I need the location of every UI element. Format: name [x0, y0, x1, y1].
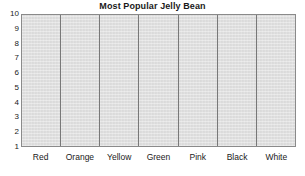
x-axis: RedOrangeYellowGreenPinkBlackWhite — [21, 152, 296, 163]
x-tick-label: White — [257, 152, 296, 163]
jelly-bean-bar-chart: Most Popular Jelly Bean 10987654321 RedO… — [0, 0, 305, 176]
category-columns — [22, 15, 295, 146]
y-tick-label: 10 — [0, 10, 19, 18]
x-tick-label: Orange — [60, 152, 99, 163]
y-tick-label: 2 — [0, 128, 19, 136]
plot-column — [179, 15, 218, 146]
y-axis: 10987654321 — [0, 12, 19, 149]
x-tick-label: Pink — [178, 152, 217, 163]
plot-area — [21, 14, 296, 147]
y-tick-label: 1 — [0, 143, 19, 151]
x-tick-label: Green — [139, 152, 178, 163]
plot-column — [61, 15, 100, 146]
y-tick-label: 3 — [0, 113, 19, 121]
chart-title: Most Popular Jelly Bean — [0, 1, 305, 12]
x-tick-label: Black — [217, 152, 256, 163]
plot-column — [100, 15, 139, 146]
plot-column — [257, 15, 295, 146]
plot-column — [22, 15, 61, 146]
y-tick-label: 7 — [0, 54, 19, 62]
plot-column — [218, 15, 257, 146]
y-tick-label: 9 — [0, 25, 19, 33]
x-tick-label: Yellow — [100, 152, 139, 163]
plot-column — [139, 15, 178, 146]
y-tick-label: 8 — [0, 40, 19, 48]
y-tick-label: 6 — [0, 69, 19, 77]
x-tick-label: Red — [21, 152, 60, 163]
y-tick-label: 5 — [0, 84, 19, 92]
y-tick-label: 4 — [0, 99, 19, 107]
